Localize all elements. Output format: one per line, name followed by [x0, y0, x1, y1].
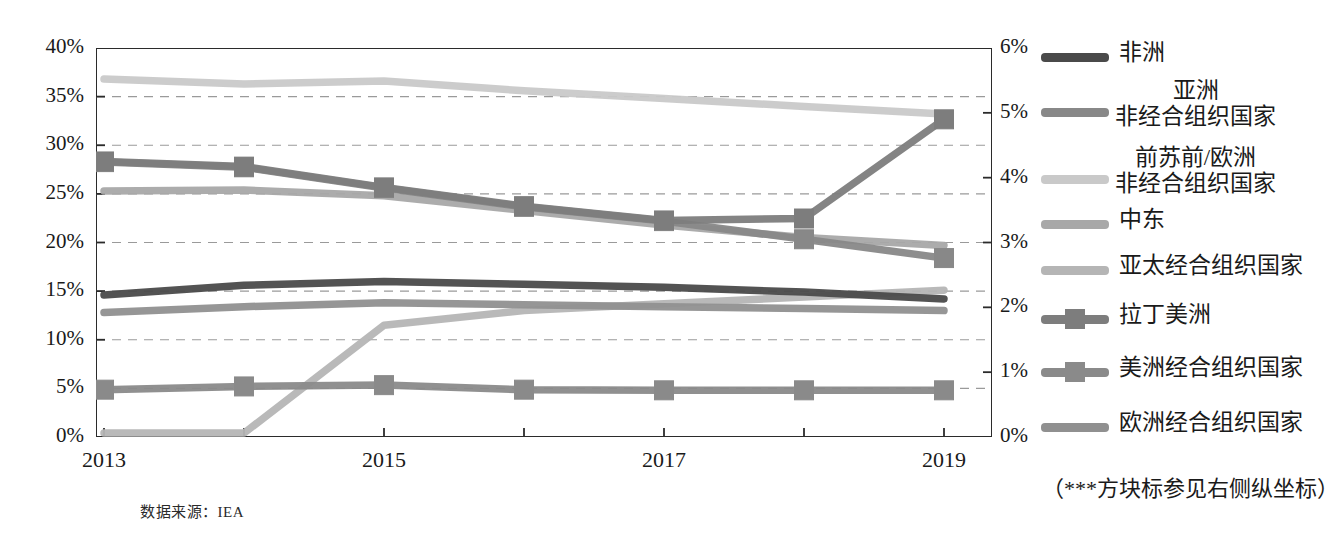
left-axis-tick-label: 10% — [14, 326, 84, 351]
x-axis-tick-label: 2017 — [642, 447, 686, 473]
series-marker — [935, 381, 954, 400]
legend-item-label: 欧洲经合组织国家 — [1119, 410, 1303, 436]
series-marker — [375, 376, 394, 395]
right-axis-tick-label: 6% — [1000, 34, 1028, 59]
left-axis-tick-label: 5% — [14, 374, 84, 399]
series-marker — [515, 197, 534, 216]
legend-item-label: 拉丁美洲 — [1119, 302, 1211, 328]
legend-color-swatch — [1041, 220, 1109, 229]
legend-color-swatch — [1041, 108, 1109, 117]
series-marker — [235, 377, 254, 396]
right-axis-tick-label: 2% — [1000, 293, 1028, 318]
legend-item-label-line2: 非经合组织国家 — [1115, 104, 1276, 130]
legend-item-label-line1: 前苏前/欧洲 — [1115, 145, 1276, 171]
right-axis-tick-label: 4% — [1000, 164, 1028, 189]
legend-square-marker — [1065, 309, 1085, 329]
legend-color-swatch — [1041, 53, 1109, 62]
series-marker — [96, 380, 114, 399]
left-axis-tick-label: 0% — [14, 423, 84, 448]
chart-page: 0%5%10%15%20%25%30%35%40% 20132015201720… — [0, 0, 1335, 554]
legend-right-axis-note: （***方块标参见右侧纵坐标） — [1042, 470, 1335, 502]
series-marker — [515, 380, 534, 399]
chart-legend: 非洲亚洲非经合组织国家前苏前/欧洲非经合组织国家中东亚太经合组织国家拉丁美洲美洲… — [1041, 28, 1335, 448]
series-marker — [935, 110, 954, 129]
left-axis-tick-label: 40% — [14, 34, 84, 59]
series-marker — [96, 152, 114, 171]
legend-square-marker — [1065, 362, 1085, 382]
series-marker — [795, 381, 814, 400]
series-marker — [655, 381, 674, 400]
legend-item-label: 亚洲非经合组织国家 — [1115, 78, 1276, 130]
series-marker — [655, 211, 674, 230]
series-line — [104, 281, 944, 299]
legend-item-label-line2: 非经合组织国家 — [1115, 171, 1276, 197]
source-note: 数据来源：IEA — [140, 500, 244, 521]
legend-color-swatch — [1041, 266, 1109, 275]
legend-item-label-line1: 亚洲 — [1115, 78, 1276, 104]
legend-item-label: 亚太经合组织国家 — [1119, 253, 1303, 279]
series-marker — [235, 157, 254, 176]
right-axis-tick-label: 0% — [1000, 423, 1028, 448]
series-marker — [375, 178, 394, 197]
legend-item-label: 前苏前/欧洲非经合组织国家 — [1115, 145, 1276, 197]
left-axis-tick-label: 35% — [14, 83, 84, 108]
legend-color-swatch — [1041, 175, 1109, 184]
right-axis-tick-label: 1% — [1000, 358, 1028, 383]
legend-item-label: 非洲 — [1119, 40, 1165, 66]
legend-color-swatch — [1041, 423, 1109, 432]
legend-item-label: 中东 — [1119, 207, 1165, 233]
legend-item-label: 美洲经合组织国家 — [1119, 355, 1303, 381]
series-marker — [935, 249, 954, 268]
left-axis-tick-label: 30% — [14, 131, 84, 156]
series-marker — [795, 209, 814, 228]
left-axis-tick-label: 15% — [14, 277, 84, 302]
right-axis-tick-label: 5% — [1000, 99, 1028, 124]
right-axis-tick-label: 3% — [1000, 229, 1028, 254]
plot-area — [96, 48, 992, 437]
x-axis-tick-label: 2013 — [82, 447, 126, 473]
left-axis-tick-label: 20% — [14, 229, 84, 254]
series-marker — [795, 230, 814, 249]
left-axis-tick-label: 25% — [14, 180, 84, 205]
x-axis-tick-label: 2015 — [362, 447, 406, 473]
x-axis-tick-label: 2019 — [922, 447, 966, 473]
line-chart-canvas — [96, 48, 992, 437]
